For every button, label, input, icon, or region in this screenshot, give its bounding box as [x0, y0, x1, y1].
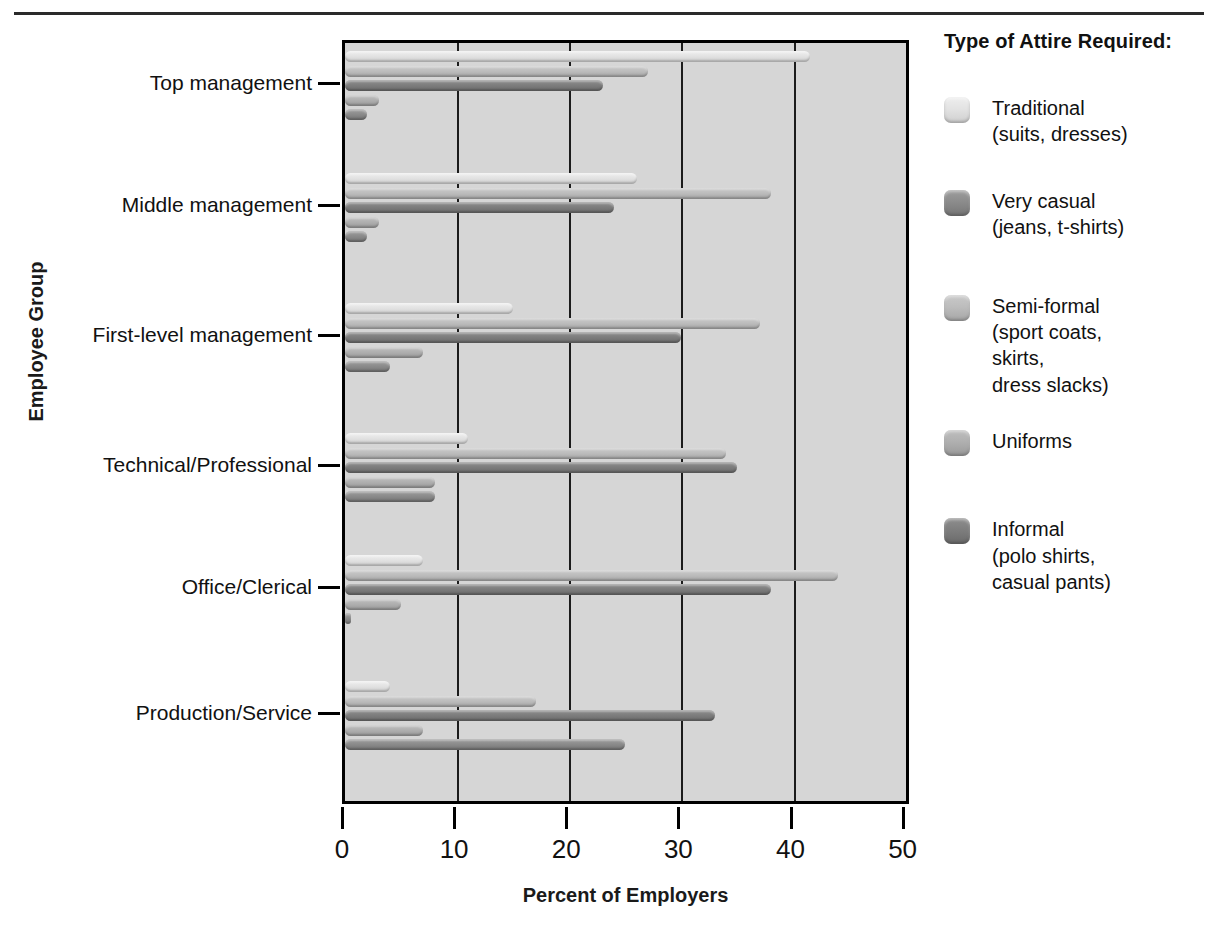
legend-item[interactable]: Very casual(jeans, t-shirts) [944, 188, 1208, 241]
y-axis-tick-label: Production/Service [136, 702, 312, 723]
x-axis-tick-mark [790, 807, 793, 829]
x-axis-tick-mark [341, 807, 344, 829]
y-axis-title: Employee Group [25, 152, 48, 532]
legend-label-detail: dress slacks) [992, 372, 1109, 398]
legend-label: Very casual(jeans, t-shirts) [992, 188, 1124, 241]
bar [345, 188, 771, 199]
x-axis-tick-label: 40 [776, 834, 805, 865]
bar [345, 613, 351, 624]
legend-label-detail: (sport coats, [992, 319, 1109, 345]
bar [345, 318, 760, 329]
y-axis-tick-mark [318, 586, 340, 589]
bar [345, 555, 423, 566]
legend-label-detail: (jeans, t-shirts) [992, 214, 1124, 240]
x-axis-title: Percent of Employers [342, 884, 909, 907]
legend-label-detail: (polo shirts, [992, 543, 1111, 569]
gridline-10 [457, 43, 459, 801]
bar [345, 739, 625, 750]
bar [345, 95, 379, 106]
x-axis-tick-mark [677, 807, 680, 829]
header-divider-rule [14, 12, 1204, 15]
bar [345, 710, 715, 721]
y-axis-tick-label: First-level management [93, 324, 312, 345]
x-axis-tick-mark [565, 807, 568, 829]
y-axis-tick-label: Top management [150, 72, 312, 93]
gridline-30 [681, 43, 683, 801]
bar [345, 303, 513, 314]
legend-label: Informal(polo shirts,casual pants) [992, 516, 1111, 595]
y-axis-tick-label: Technical/Professional [103, 454, 312, 475]
legend-item[interactable]: Informal(polo shirts,casual pants) [944, 516, 1208, 595]
bar [345, 448, 726, 459]
bar [345, 231, 367, 242]
chart-page: Employee Group Top managementMiddle mana… [0, 0, 1218, 929]
bar [345, 725, 423, 736]
bar [345, 696, 536, 707]
bar [345, 361, 390, 372]
bar [345, 332, 681, 343]
legend-label-main: Uniforms [992, 428, 1072, 454]
legend-swatch-icon [944, 97, 970, 123]
bar [345, 433, 468, 444]
legend-swatch-icon [944, 430, 970, 456]
y-axis-title-container: Employee Group [6, 0, 46, 764]
bar [345, 217, 379, 228]
x-axis-tick-label: 20 [552, 834, 581, 865]
y-axis-tick-label: Middle management [122, 194, 312, 215]
bar [345, 570, 838, 581]
legend-swatch-icon [944, 295, 970, 321]
legend-label-detail: skirts, [992, 345, 1109, 371]
bar [345, 599, 401, 610]
y-axis-tick-mark [318, 204, 340, 207]
legend-items: Traditional(suits, dresses)Very casual(j… [944, 95, 1208, 595]
legend-title: Type of Attire Required: [944, 30, 1208, 53]
bar [345, 462, 737, 473]
legend-label-main: Semi-formal [992, 293, 1109, 319]
legend-label: Semi-formal(sport coats,skirts,dress sla… [992, 293, 1109, 399]
x-axis-tick-mark [902, 807, 905, 829]
bar [345, 51, 810, 62]
legend-item[interactable]: Semi-formal(sport coats,skirts,dress sla… [944, 293, 1208, 399]
bar [345, 202, 614, 213]
bar [345, 66, 648, 77]
legend-swatch-icon [944, 518, 970, 544]
bar [345, 491, 435, 502]
bar [345, 80, 603, 91]
gridline-40 [794, 43, 796, 801]
legend: Type of Attire Required: Traditional(sui… [944, 30, 1208, 595]
bar [345, 109, 367, 120]
legend-label-main: Traditional [992, 95, 1128, 121]
legend-swatch-icon [944, 190, 970, 216]
x-axis-tick-label: 0 [335, 834, 349, 865]
x-axis-tick-mark [453, 807, 456, 829]
y-axis-tick-label: Office/Clerical [182, 576, 312, 597]
x-axis-tick-label: 50 [888, 834, 917, 865]
bar [345, 681, 390, 692]
legend-label-main: Informal [992, 516, 1111, 542]
bar [345, 477, 435, 488]
bar [345, 347, 423, 358]
legend-label-detail: (suits, dresses) [992, 121, 1128, 147]
y-axis-tick-mark [318, 464, 340, 467]
legend-item[interactable]: Uniforms [944, 428, 1208, 456]
legend-label-detail: casual pants) [992, 569, 1111, 595]
legend-label: Traditional(suits, dresses) [992, 95, 1128, 148]
legend-label-main: Very casual [992, 188, 1124, 214]
plot-area [342, 40, 909, 804]
x-axis-tick-label: 30 [664, 834, 693, 865]
bar [345, 173, 637, 184]
bar [345, 584, 771, 595]
y-axis-tick-mark [318, 82, 340, 85]
plot-inner [345, 43, 906, 801]
y-axis-tick-mark [318, 334, 340, 337]
x-axis-tick-label: 10 [440, 834, 469, 865]
legend-item[interactable]: Traditional(suits, dresses) [944, 95, 1208, 148]
legend-label: Uniforms [992, 428, 1072, 454]
gridline-20 [569, 43, 571, 801]
y-axis-tick-mark [318, 712, 340, 715]
